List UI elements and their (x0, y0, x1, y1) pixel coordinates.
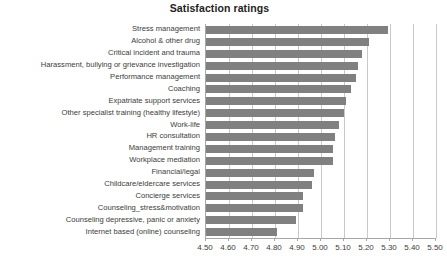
category-label: Financial/legal (0, 168, 200, 176)
x-axis-tick (251, 238, 252, 241)
bar-row[interactable] (206, 121, 339, 129)
bar[interactable] (206, 50, 362, 58)
bar-row[interactable] (206, 145, 333, 153)
bar[interactable] (206, 121, 339, 129)
x-axis-tick (435, 238, 436, 241)
x-axis-tick (228, 238, 229, 241)
bar-row[interactable] (206, 38, 369, 46)
bar[interactable] (206, 216, 296, 224)
category-label: Management training (0, 144, 200, 152)
category-label: Harassment, bullying or grievance invest… (0, 61, 200, 69)
bar-row[interactable] (206, 228, 277, 236)
bar-row[interactable] (206, 97, 346, 105)
x-axis-tick (343, 238, 344, 241)
category-label: Internet based (online) counseling (0, 228, 200, 236)
bar-row[interactable] (206, 62, 358, 70)
x-axis-tick (274, 238, 275, 241)
bar-row[interactable] (206, 181, 312, 189)
category-label: Coaching (0, 85, 200, 93)
bar[interactable] (206, 145, 333, 153)
bar[interactable] (206, 204, 303, 212)
bar-row[interactable] (206, 204, 303, 212)
bar-row[interactable] (206, 192, 303, 200)
category-label: Concierge services (0, 192, 200, 200)
gridline (436, 24, 437, 238)
bar-row[interactable] (206, 109, 344, 117)
bar[interactable] (206, 26, 388, 34)
x-axis-tick (412, 238, 413, 241)
bar-row[interactable] (206, 133, 335, 141)
bar[interactable] (206, 157, 333, 165)
bar[interactable] (206, 85, 351, 93)
x-axis-tick (297, 238, 298, 241)
x-axis-tick (389, 238, 390, 241)
bar[interactable] (206, 97, 346, 105)
category-label: Work-life (0, 121, 200, 129)
bar-row[interactable] (206, 50, 362, 58)
category-label: Workplace mediation (0, 156, 200, 164)
chart-title: Satisfaction ratings (0, 2, 439, 14)
bar[interactable] (206, 62, 358, 70)
gridline (413, 24, 414, 238)
category-label: Counseling_stress&motivation (0, 204, 200, 212)
category-label: Stress management (0, 25, 200, 33)
bar[interactable] (206, 228, 277, 236)
bar[interactable] (206, 38, 369, 46)
bar[interactable] (206, 74, 356, 82)
category-axis-labels: Stress managementAlcohol & other drugCri… (0, 24, 203, 238)
plot-wrapper: Stress managementAlcohol & other drugCri… (0, 24, 439, 238)
x-axis-tick (205, 238, 206, 241)
bar[interactable] (206, 133, 335, 141)
category-label: Critical incident and trauma (0, 49, 200, 57)
bar[interactable] (206, 192, 303, 200)
bar-row[interactable] (206, 85, 351, 93)
category-label: Childcare/eldercare services (0, 180, 200, 188)
category-label: Performance management (0, 73, 200, 81)
bar-row[interactable] (206, 26, 388, 34)
x-axis-tick (320, 238, 321, 241)
bar-row[interactable] (206, 74, 356, 82)
bar-row[interactable] (206, 157, 333, 165)
category-label: Alcohol & other drug (0, 37, 200, 45)
bar[interactable] (206, 109, 344, 117)
category-label: Expatriate support services (0, 97, 200, 105)
category-label: HR consultation (0, 132, 200, 140)
bar-row[interactable] (206, 169, 314, 177)
x-axis-tick-label: 5.50 (415, 243, 447, 252)
category-label: Other specialist training (healthy lifes… (0, 109, 200, 117)
gridline (367, 24, 368, 238)
plot-area (205, 24, 436, 238)
x-axis-tick (366, 238, 367, 241)
bar[interactable] (206, 169, 314, 177)
category-label: Counseling depressive, panic or anxiety (0, 216, 200, 224)
bar[interactable] (206, 181, 312, 189)
gridline (390, 24, 391, 238)
bar-row[interactable] (206, 216, 296, 224)
